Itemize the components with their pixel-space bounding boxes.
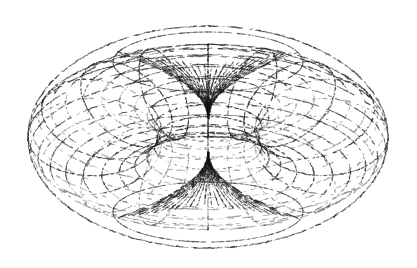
torus-wireframe-svg xyxy=(0,0,417,268)
figure-container: Wireframe torus mesh Dithered scanned li… xyxy=(0,0,417,268)
